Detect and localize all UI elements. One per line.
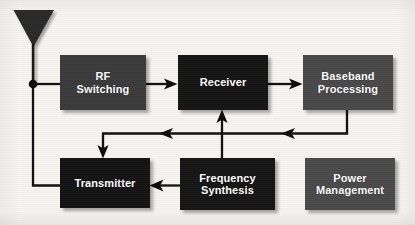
antenna-icon xyxy=(14,10,55,84)
block-receiver[interactable]: Receiver xyxy=(178,55,268,110)
block-diagram: RF Switching Receiver Baseband Processin… xyxy=(0,0,415,225)
block-baseband-line2: Processing xyxy=(315,83,381,96)
block-rf-switching-line1: RF xyxy=(74,70,133,83)
line-junction-to-transmitter xyxy=(33,84,61,186)
block-frequency-synthesis[interactable]: Frequency Synthesis xyxy=(180,158,275,210)
block-frequency-synthesis-line2: Synthesis xyxy=(196,184,259,197)
block-power-management-line2: Management xyxy=(313,184,387,197)
block-power-management[interactable]: Power Management xyxy=(305,158,395,210)
block-power-management-line1: Power xyxy=(313,172,387,185)
block-baseband-line1: Baseband xyxy=(315,70,381,83)
block-rf-switching[interactable]: RF Switching xyxy=(60,55,146,110)
block-transmitter[interactable]: Transmitter xyxy=(60,158,150,208)
line-baseband-feedback-bus xyxy=(103,110,347,152)
arrow-receiver-to-baseband xyxy=(268,78,303,89)
block-frequency-synthesis-line1: Frequency xyxy=(196,172,259,185)
block-baseband-processing[interactable]: Baseband Processing xyxy=(303,55,393,110)
block-receiver-line1: Receiver xyxy=(197,76,250,89)
block-rf-switching-line2: Switching xyxy=(74,83,133,96)
arrow-frequency-synthesis-to-transmitter xyxy=(150,180,181,192)
block-transmitter-line1: Transmitter xyxy=(71,177,138,190)
arrow-rf-switching-to-receiver xyxy=(146,78,178,89)
